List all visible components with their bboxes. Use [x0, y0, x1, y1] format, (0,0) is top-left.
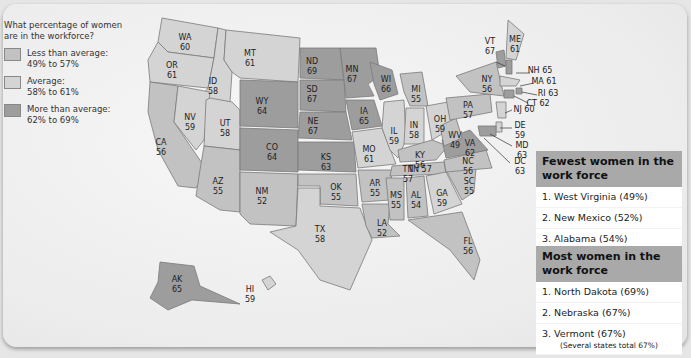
state-ri: [516, 88, 522, 94]
state-wy: [240, 80, 298, 128]
fewest-item: 2. New Mexico (52%): [536, 208, 682, 229]
state-label-ar: AR55: [369, 179, 380, 198]
state-label-sc: SC55: [464, 177, 475, 196]
state-ak: [150, 262, 240, 310]
state-label-oh: OH59: [434, 115, 446, 134]
state-label-ut: UT58: [220, 119, 231, 138]
fewest-item: 1. West Virginia (49%): [536, 187, 682, 208]
state-label-ri: RI 63: [538, 89, 559, 98]
state-label-wi: WI66: [381, 75, 391, 94]
state-label-dc: DC63: [514, 157, 526, 176]
state-nj: [496, 102, 506, 118]
state-label-ga: GA59: [436, 189, 448, 208]
state-nm: [240, 172, 298, 226]
most-women-box: Most women in the work force 1. North Da…: [536, 246, 682, 355]
state-label-ia: IA65: [359, 107, 369, 126]
state-label-mo: MO61: [362, 145, 375, 164]
fewest-title: Fewest women in the work force: [536, 151, 682, 187]
state-label-ms: MS55: [390, 191, 402, 210]
state-label-nc: NC56: [462, 157, 474, 176]
most-item-text: 3. Vermont (67%): [542, 328, 626, 339]
leader-ri: [522, 92, 537, 95]
state-label-fl: FL56: [463, 237, 473, 256]
state-ne: [298, 112, 352, 140]
state-label-wa: WA60: [179, 33, 192, 52]
state-ma: [500, 76, 520, 86]
state-nh: [506, 60, 512, 74]
fewest-women-box: Fewest women in the work force 1. West V…: [536, 151, 682, 250]
state-label-nm: NM52: [256, 187, 269, 206]
most-note: (Several states total 67%): [542, 341, 676, 350]
state-label-az: AZ55: [213, 177, 224, 196]
state-mt: [224, 30, 300, 82]
state-fl: [408, 212, 480, 280]
state-label-nh: NH 65: [528, 66, 553, 75]
state-label-in: IN58: [409, 121, 419, 140]
state-label-mn: MN67: [346, 65, 359, 84]
state-label-vt: VT67: [485, 37, 495, 56]
state-de: [496, 122, 502, 132]
state-ny: [456, 62, 504, 96]
state-label-ne: NE67: [307, 117, 318, 136]
state-md: [478, 126, 496, 136]
most-item: 2. Nebraska (67%): [536, 303, 682, 324]
state-label-ks: KS63: [321, 153, 331, 172]
state-label-ok: OK55: [330, 183, 342, 202]
state-label-tx: TX58: [314, 225, 326, 244]
most-item: 1. North Dakota (69%): [536, 282, 682, 303]
state-label-me: ME61: [509, 35, 521, 54]
state-label-ma: MA 61: [531, 77, 556, 86]
leader-md: [490, 134, 512, 146]
state-label-tn: TN 57: [407, 165, 432, 174]
state-label-va: VA62: [465, 139, 476, 158]
state-label-al: AL54: [411, 191, 422, 210]
state-label-mi: MI55: [411, 85, 421, 104]
state-label-ca: CA56: [155, 138, 167, 157]
state-label-or: OR61: [166, 61, 178, 80]
state-label-id: ID58: [208, 77, 218, 96]
state-vt: [496, 50, 506, 68]
state-label-co: CO64: [266, 143, 278, 162]
state-hi: [262, 276, 276, 290]
state-label-ny: NY56: [482, 75, 493, 94]
state-label-wy: WY64: [256, 97, 269, 116]
state-label-nv: NV59: [184, 113, 196, 132]
state-label-nj: NJ 60: [513, 105, 534, 114]
state-label-ak: AK65: [172, 275, 183, 294]
state-label-hi: HI59: [245, 285, 255, 304]
state-label-de: DE59: [514, 121, 525, 140]
state-ct: [504, 90, 514, 98]
state-label-la: LA52: [377, 219, 388, 238]
state-label-pa: PA57: [463, 101, 474, 120]
state-label-mt: MT61: [244, 49, 256, 68]
most-title: Most women in the work force: [536, 246, 682, 282]
most-item: 3. Vermont (67%) (Several states total 6…: [536, 324, 682, 355]
state-label-nd: ND69: [306, 57, 318, 76]
state-label-sd: SD67: [306, 85, 317, 104]
